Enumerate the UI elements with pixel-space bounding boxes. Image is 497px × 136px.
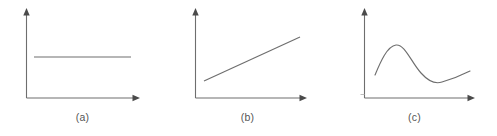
caption-c: (c) bbox=[332, 110, 497, 124]
x-axis-arrowhead-a bbox=[133, 95, 141, 101]
chart-c-svg bbox=[332, 0, 497, 110]
caption-a: (a) bbox=[0, 110, 165, 124]
chart-panel-c: (c) bbox=[332, 0, 497, 136]
chart-panel-a: (a) bbox=[0, 0, 165, 136]
figure-root: (a) (b) (c) bbox=[0, 0, 497, 136]
data-series-wave-c bbox=[375, 45, 470, 83]
chart-b-svg bbox=[165, 0, 330, 110]
x-axis-arrowhead-b bbox=[300, 95, 308, 101]
x-axis-arrowhead-c bbox=[468, 95, 476, 101]
chart-panel-b: (b) bbox=[165, 0, 330, 136]
y-axis-arrowhead-c bbox=[361, 8, 367, 16]
data-series-linear-b bbox=[204, 37, 300, 81]
caption-b: (b) bbox=[165, 110, 330, 124]
y-axis-arrowhead-b bbox=[192, 8, 198, 16]
y-axis-arrowhead-a bbox=[23, 8, 29, 16]
chart-a-svg bbox=[0, 0, 165, 110]
